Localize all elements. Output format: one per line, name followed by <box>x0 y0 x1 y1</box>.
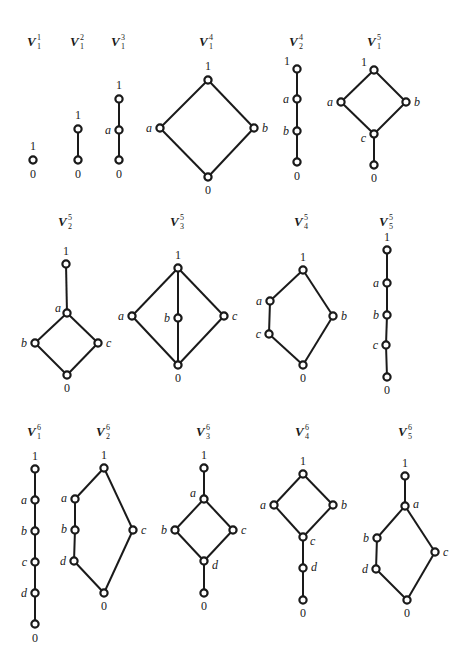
node-label: c <box>241 523 247 537</box>
node-label: 0 <box>300 371 306 385</box>
node-label: 1 <box>300 454 306 468</box>
lattice-diagrams-figure: V1110V2110V311a0V411ab0V421ab0V511abc0V5… <box>0 0 465 667</box>
lattice-node-a <box>128 312 135 319</box>
node-label: 1 <box>384 230 390 244</box>
title-superscript: 3 <box>121 33 125 42</box>
node-label: 1 <box>361 55 367 69</box>
hasse-edge <box>75 468 104 499</box>
node-label: 0 <box>64 381 70 395</box>
node-label: 1 <box>30 139 36 153</box>
title-subscript: 4 <box>305 432 309 441</box>
node-label: 0 <box>371 171 377 185</box>
lattice-node-0 <box>29 156 36 163</box>
node-label: 1 <box>75 108 81 122</box>
lattice-V1_4: V411ab0 <box>146 33 268 197</box>
node-label: c <box>310 534 316 548</box>
title-subscript: 1 <box>209 42 213 51</box>
lattice-V5_6: V651abdc0 <box>362 423 449 620</box>
lattice-title: V <box>70 34 80 49</box>
hasse-edge <box>405 506 435 552</box>
lattice-node-c <box>31 558 38 565</box>
node-label: a <box>55 301 61 315</box>
node-label: d <box>60 554 67 568</box>
lattice-title: V <box>398 424 408 439</box>
node-label: c <box>361 131 367 145</box>
node-label: 1 <box>402 456 408 470</box>
lattice-node-0 <box>174 361 181 368</box>
node-label: 0 <box>116 167 122 181</box>
lattice-node-b <box>293 127 300 134</box>
hasse-edge <box>67 343 98 375</box>
node-label: b <box>414 95 420 109</box>
hasse-edge <box>376 569 407 600</box>
lattice-node-0 <box>74 156 81 163</box>
lattice-node-1 <box>174 264 181 271</box>
lattice-node-b <box>402 98 409 105</box>
lattice-title: V <box>111 34 121 49</box>
lattice-V3_5: V531abc0 <box>118 213 238 385</box>
lattice-node-1 <box>401 472 408 479</box>
lattice-node-1 <box>200 464 207 471</box>
node-label: 1 <box>201 448 207 462</box>
title-subscript: 2 <box>106 432 110 441</box>
node-label: c <box>141 523 147 537</box>
node-label: 0 <box>101 599 107 613</box>
lattice-node-1 <box>74 125 81 132</box>
title-superscript: 4 <box>299 33 303 42</box>
lattice-title: V <box>27 424 37 439</box>
node-label: c <box>232 309 238 323</box>
node-label: a <box>21 493 27 507</box>
node-label: c <box>443 545 449 559</box>
title-subscript: 5 <box>408 432 412 441</box>
lattice-node-a <box>293 95 300 102</box>
lattice-node-b <box>383 311 390 318</box>
lattice-node-0 <box>100 589 107 596</box>
lattice-V4_5: V541acb0 <box>256 213 347 385</box>
lattice-node-d <box>200 557 207 564</box>
lattice-node-c <box>129 526 136 533</box>
title-subscript: 1 <box>37 432 41 441</box>
hasse-edge <box>374 102 406 134</box>
lattice-title: V <box>379 214 389 229</box>
title-superscript: 5 <box>68 213 72 222</box>
node-label: b <box>373 308 379 322</box>
node-label: b <box>161 523 167 537</box>
lattice-node-b <box>71 526 78 533</box>
node-label: 0 <box>205 183 211 197</box>
lattice-node-c <box>431 548 438 555</box>
hasse-edge <box>35 343 67 375</box>
node-label: d <box>311 560 318 574</box>
lattice-node-d <box>299 564 306 571</box>
title-subscript: 3 <box>206 432 210 441</box>
node-label: b <box>21 336 27 350</box>
lattice-V2_6: V621abdc0 <box>60 423 147 613</box>
lattice-node-1 <box>115 95 122 102</box>
node-label: 1 <box>63 244 69 258</box>
lattice-node-a <box>63 309 70 316</box>
node-label: c <box>256 327 262 341</box>
lattice-title: V <box>170 214 180 229</box>
hasse-edge <box>341 102 374 134</box>
hasse-edge <box>270 270 303 301</box>
lattice-title: V <box>96 424 106 439</box>
title-subscript: 2 <box>299 42 303 51</box>
title-superscript: 6 <box>106 423 110 432</box>
node-label: b <box>164 311 170 325</box>
node-label: c <box>106 336 112 350</box>
lattice-title: V <box>199 34 209 49</box>
hasse-edge <box>274 505 303 537</box>
hasse-edge <box>67 313 98 343</box>
hasse-edge <box>132 316 178 365</box>
title-superscript: 6 <box>206 423 210 432</box>
node-label: 1 <box>205 59 211 73</box>
node-label: a <box>260 498 266 512</box>
lattice-title: V <box>289 34 299 49</box>
lattice-node-b <box>250 124 257 131</box>
hasse-edge <box>303 474 333 505</box>
hasse-edge <box>269 301 270 334</box>
hasse-edge <box>204 499 233 530</box>
hasse-edge <box>35 313 67 343</box>
hasse-edge <box>178 316 224 365</box>
node-label: 1 <box>175 248 181 262</box>
lattice-node-a <box>31 496 38 503</box>
